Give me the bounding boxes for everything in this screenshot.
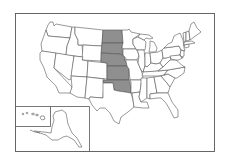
state-new-jersey xyxy=(180,50,184,57)
state-kansas xyxy=(107,66,129,80)
state-vermont xyxy=(183,32,186,42)
state-washington xyxy=(46,22,72,38)
us-map: United States map with highlighted state… xyxy=(0,0,227,164)
state-florida xyxy=(150,93,178,118)
state-new-mexico xyxy=(85,77,104,99)
state-montana xyxy=(75,27,103,46)
state-hawaii xyxy=(22,112,45,120)
state-maine xyxy=(189,22,201,40)
state-massachusetts xyxy=(184,41,195,45)
state-alaska xyxy=(34,110,82,147)
inset-divider xyxy=(16,107,51,127)
state-colorado xyxy=(87,61,107,79)
state-iowa xyxy=(123,49,139,60)
state-wyoming xyxy=(82,45,102,61)
state-north-dakota xyxy=(102,30,123,43)
state-arizona xyxy=(70,76,87,98)
